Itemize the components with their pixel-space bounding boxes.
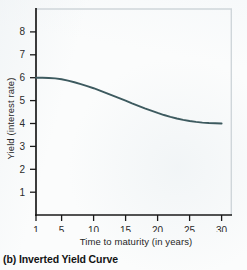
yield-curve-plot: 8 7 6 5 4 3 2 1 1 5 10 15 20 25 30 [0, 0, 247, 232]
x-tick-label-25: 25 [184, 225, 196, 232]
x-tick-label-5: 5 [59, 225, 65, 232]
y-axis-title: Yield (interest rate) [5, 59, 16, 179]
x-axis-title: Time to maturity (in years) [47, 236, 225, 247]
y-axis-ticks [30, 32, 36, 192]
y-tick-label-2: 2 [19, 164, 25, 175]
y-tick-label-8: 8 [19, 26, 25, 37]
figure-inverted-yield-curve: 8 7 6 5 4 3 2 1 1 5 10 15 20 25 30 Time … [0, 0, 247, 270]
yield-curve-line [36, 78, 222, 124]
x-tick-label-15: 15 [120, 225, 132, 232]
y-tick-label-7: 7 [19, 49, 25, 60]
x-tick-label-1: 1 [33, 225, 39, 232]
y-tick-label-3: 3 [19, 141, 25, 152]
y-tick-label-6: 6 [19, 72, 25, 83]
x-axis-ticks [36, 215, 222, 221]
y-tick-label-1: 1 [19, 187, 25, 198]
y-tick-label-4: 4 [19, 118, 25, 129]
y-tick-label-5: 5 [19, 95, 25, 106]
figure-caption: (b) Inverted Yield Curve [3, 253, 118, 265]
x-tick-label-30: 30 [216, 225, 228, 232]
x-tick-label-10: 10 [88, 225, 100, 232]
x-tick-label-20: 20 [152, 225, 164, 232]
